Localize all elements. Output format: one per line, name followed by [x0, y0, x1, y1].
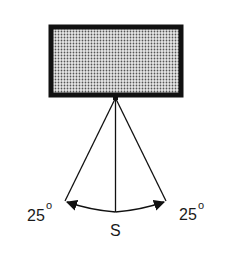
left-line — [65, 98, 116, 201]
right-angle-label: 25 o — [179, 199, 204, 223]
center-label: S — [110, 222, 121, 239]
left-angle-label: 25 o — [27, 199, 52, 224]
pendulum-diagram: 25 o 25 o S — [0, 0, 226, 257]
svg-text:o: o — [198, 199, 204, 211]
suspended-box — [51, 27, 181, 95]
svg-text:25: 25 — [179, 206, 197, 223]
svg-text:25: 25 — [27, 207, 45, 224]
pendulum-lines — [65, 98, 166, 212]
left-arc-arrow — [67, 202, 116, 212]
right-line — [116, 98, 167, 201]
svg-text:o: o — [46, 199, 52, 211]
right-arc-arrow — [116, 202, 165, 212]
